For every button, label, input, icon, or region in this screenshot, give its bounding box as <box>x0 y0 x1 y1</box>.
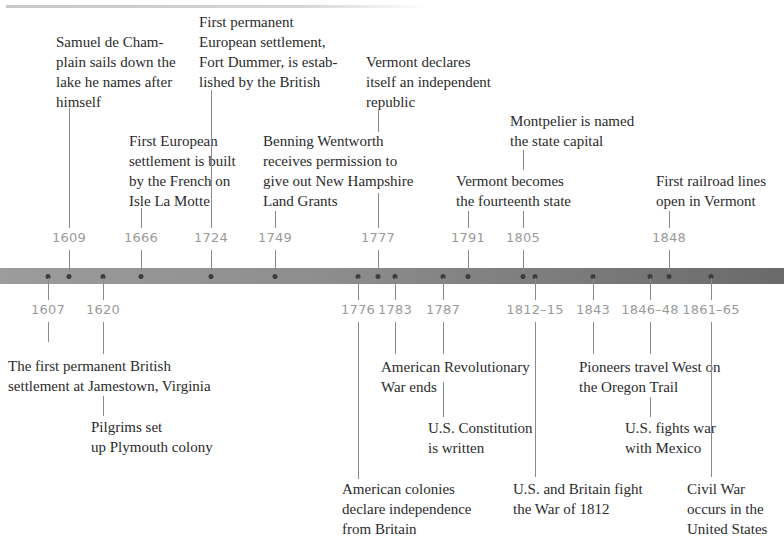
event-caption-1787: U.S. Constitution is written <box>428 418 533 458</box>
connector-1787-caption-upper <box>443 322 444 354</box>
connector-1843-caption <box>593 322 594 354</box>
year-label-1777: 1777 <box>361 230 395 245</box>
year-label-1848: 1848 <box>652 230 686 245</box>
event-caption-1783: American Revolutionary War ends <box>381 357 530 397</box>
connector-1749-caption <box>275 211 276 228</box>
event-caption-1843: Pioneers travel West on the Oregon Trail <box>579 357 720 397</box>
year-label-1805: 1805 <box>506 230 540 245</box>
year-label-1783: 1783 <box>378 302 412 317</box>
connector-1776-bar <box>358 278 359 300</box>
connector-1724-caption <box>211 90 212 228</box>
year-label-1812-15: 1812–15 <box>506 302 564 317</box>
event-caption-1749: Benning Wentworth receives permission to… <box>263 131 413 211</box>
connector-1777-caption-upper <box>378 110 379 132</box>
connector-1620-caption-lower <box>103 396 104 416</box>
connector-1805-bar <box>523 250 524 272</box>
connector-1666-caption <box>141 208 142 228</box>
connector-1846-caption-lower <box>650 397 651 417</box>
connector-1777-bar <box>378 250 379 272</box>
connector-1620-bar <box>103 278 104 300</box>
connector-1848-bar <box>669 250 670 272</box>
event-caption-1848: First railroad lines open in Vermont <box>656 171 766 211</box>
connector-1749-bar <box>275 250 276 272</box>
event-caption-1620: Pilgrims set up Plymouth colony <box>91 417 213 457</box>
timeline-dot-1609 <box>67 274 72 279</box>
connector-1609-bar <box>69 250 70 272</box>
event-caption-1607: The first permanent British settlement a… <box>8 356 211 396</box>
event-caption-1776: American colonies declare independence f… <box>342 479 472 539</box>
year-label-1843: 1843 <box>576 302 610 317</box>
connector-1861-bar <box>711 278 712 300</box>
connector-1812-bar <box>535 278 536 300</box>
connector-1846-bar <box>650 278 651 300</box>
event-caption-1791: Vermont becomes the fourteenth state <box>456 171 571 211</box>
connector-1783-bar <box>395 278 396 300</box>
connector-1607-caption <box>48 322 49 342</box>
connector-1776-caption <box>358 322 359 479</box>
timeline-dot-1777 <box>376 274 381 279</box>
connector-1607-bar <box>48 278 49 300</box>
year-label-1666: 1666 <box>124 230 158 245</box>
connector-1787-caption-lower <box>443 382 444 417</box>
event-caption-1777: Vermont declares itself an independent r… <box>366 52 491 112</box>
timeline-dot-1724 <box>209 274 214 279</box>
year-label-1787: 1787 <box>426 302 460 317</box>
connector-1791-bar <box>468 250 469 272</box>
connector-1812-caption <box>535 322 536 477</box>
event-caption-1609: Samuel de Cham- plain sails down the lak… <box>56 32 176 112</box>
connector-1777-caption-lower <box>378 193 379 228</box>
year-label-1791: 1791 <box>451 230 485 245</box>
event-caption-1805: Montpelier is named the state capital <box>510 111 634 151</box>
event-caption-1666: First European settlement is built by th… <box>129 131 236 211</box>
year-label-1607: 1607 <box>31 302 65 317</box>
connector-1787-bar <box>443 278 444 300</box>
timeline-dot-1791 <box>466 274 471 279</box>
event-caption-1812-15: U.S. and Britain fight the War of 1812 <box>513 479 643 519</box>
event-caption-1724: First permanent European settlement, For… <box>199 12 338 92</box>
connector-1666-bar <box>141 250 142 272</box>
connector-1805-caption-upper <box>523 150 524 170</box>
connector-1609-caption <box>69 108 70 228</box>
connector-1861-caption <box>711 322 712 477</box>
connector-1846-caption-upper <box>650 322 651 354</box>
year-label-1846-48: 1846–48 <box>621 302 679 317</box>
connector-1724-bar <box>211 250 212 272</box>
timeline-dot-1805 <box>521 274 526 279</box>
connector-1805-caption-lower <box>523 211 524 228</box>
connector-1848-caption <box>669 211 670 228</box>
top-rule-divider <box>6 5 426 8</box>
timeline-dot-1666 <box>139 274 144 279</box>
year-label-1776: 1776 <box>341 302 375 317</box>
year-label-1749: 1749 <box>258 230 292 245</box>
year-label-1620: 1620 <box>86 302 120 317</box>
connector-1620-caption-upper <box>103 322 104 354</box>
timeline-dot-1848 <box>667 274 672 279</box>
timeline-dot-1749 <box>273 274 278 279</box>
year-label-1861-65: 1861–65 <box>682 302 740 317</box>
year-label-1724: 1724 <box>194 230 228 245</box>
event-caption-1846-48: U.S. fights war with Mexico <box>625 418 716 458</box>
connector-1783-caption <box>395 322 396 354</box>
connector-1843-bar <box>593 278 594 300</box>
event-caption-1861-65: Civil War occurs in the United States <box>687 479 767 539</box>
year-label-1609: 1609 <box>52 230 86 245</box>
connector-1791-caption <box>468 211 469 228</box>
